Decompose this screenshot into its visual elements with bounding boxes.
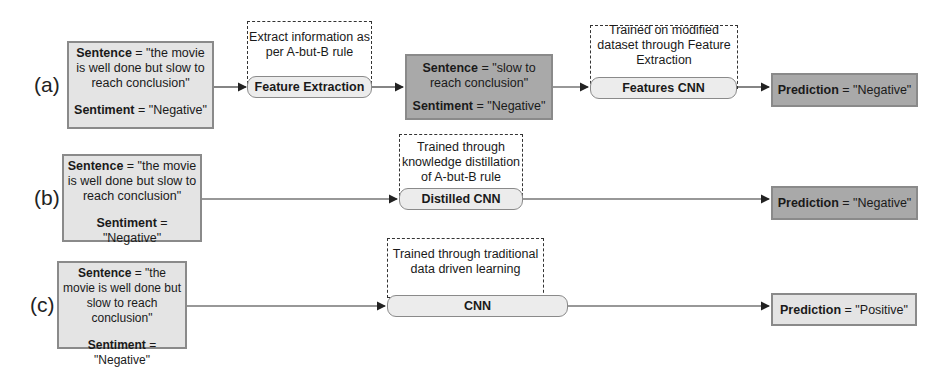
sentence-key: Sentence — [422, 61, 478, 75]
prediction-value: = "Positive" — [845, 303, 908, 317]
row-label-c: (c) — [30, 293, 55, 317]
row-label-a: (a) — [34, 73, 60, 97]
features-cnn-step: Features CNN — [590, 77, 737, 99]
sentiment-key: Sentiment — [413, 99, 473, 113]
prediction-box-b: Prediction = "Negative" — [771, 186, 918, 220]
sentiment-value: = "Negative" — [138, 103, 207, 117]
sentence-key: Sentence — [68, 159, 124, 173]
row-label-b: (b) — [34, 186, 60, 210]
prediction-key: Prediction — [778, 83, 839, 98]
prediction-value: = "Negative" — [842, 196, 911, 211]
prediction-key: Prediction — [778, 196, 839, 211]
cnn-step: CNN — [387, 295, 568, 317]
input-box-c: Sentence = "the movie is well done but s… — [57, 261, 187, 349]
prediction-box-c: Prediction = "Positive" — [771, 293, 917, 326]
sentiment-value: = "Negative" — [476, 99, 545, 113]
sentiment-key: Sentiment — [74, 103, 134, 117]
sentiment-key: Sentiment — [88, 338, 146, 352]
intermediate-box-a: Sentence = "slow to reach conclusion" Se… — [405, 54, 553, 120]
feature-extraction-step: Feature Extraction — [247, 76, 372, 98]
sentence-key: Sentence — [76, 46, 132, 60]
prediction-value: = "Negative" — [842, 83, 911, 98]
note-text: Trained on modified dataset through Feat… — [591, 23, 737, 68]
input-box-b: Sentence = "the movie is well done but s… — [62, 154, 202, 242]
input-box-a: Sentence = "the movie is well done but s… — [67, 41, 214, 129]
note-text: Trained through knowledge distillation o… — [400, 140, 522, 185]
distilled-cnn-step: Distilled CNN — [399, 188, 523, 210]
note-text: Extract information as per A-but-B rule — [248, 30, 371, 60]
note-text: Trained through traditional data driven … — [388, 247, 543, 277]
sentence-key: Sentence — [78, 266, 131, 280]
prediction-box-a: Prediction = "Negative" — [771, 73, 918, 107]
prediction-key: Prediction — [780, 303, 841, 317]
note-cnn: Trained through traditional data driven … — [387, 238, 544, 298]
sentiment-key: Sentiment — [96, 216, 156, 230]
